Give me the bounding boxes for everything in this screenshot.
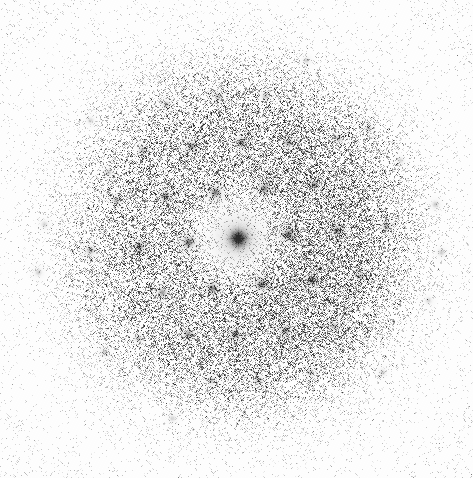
diffraction-pattern-image bbox=[0, 0, 473, 478]
diffraction-pattern-canvas bbox=[0, 0, 473, 478]
